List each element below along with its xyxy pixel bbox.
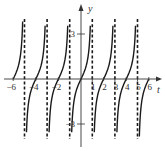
x-tick-label: 2 xyxy=(102,82,107,92)
y-axis-label: y xyxy=(87,3,93,14)
curve-branch xyxy=(13,22,22,79)
x-tick-label: −4 xyxy=(29,82,39,92)
x-tick-label: 3 xyxy=(114,82,119,92)
x-tick-label: 5 xyxy=(136,82,141,92)
x-axis-label: t xyxy=(157,84,160,95)
y-tick-label: −3 xyxy=(65,119,75,129)
tangent-graph: −6−4−21234563−3 t y xyxy=(0,0,165,151)
x-axis-arrow-icon xyxy=(156,77,162,82)
x-tick-label: 1 xyxy=(91,82,96,92)
x-tick-label: −2 xyxy=(52,82,62,92)
x-tick-label: 4 xyxy=(125,82,130,92)
x-tick-label: −6 xyxy=(6,82,16,92)
x-tick-label: 6 xyxy=(148,82,153,92)
y-axis-arrow-icon xyxy=(79,4,84,11)
y-tick-label: 3 xyxy=(71,29,76,39)
